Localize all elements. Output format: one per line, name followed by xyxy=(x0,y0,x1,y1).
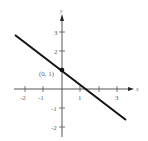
point-marker xyxy=(60,68,65,73)
x-tick-label: 1 xyxy=(78,94,82,102)
graph: x y -2 -1 1 3 3 2 -1 -2 (0, 1) xyxy=(0,0,148,141)
x-tick-label: -1 xyxy=(38,94,44,102)
x-tick-label: -2 xyxy=(20,94,26,102)
data-line xyxy=(15,35,126,120)
point-label: (0, 1) xyxy=(39,70,55,78)
x-axis-arrow-icon xyxy=(128,87,134,91)
y-tick-label: -2 xyxy=(51,124,57,132)
y-axis-arrow-icon xyxy=(60,14,64,21)
x-tick-label: 3 xyxy=(115,94,119,102)
y-tick-label: 2 xyxy=(54,48,58,56)
y-tick-label: 3 xyxy=(54,29,58,37)
y-axis-label: y xyxy=(59,8,63,14)
x-axis-label: x xyxy=(135,86,139,92)
y-tick-label: -1 xyxy=(51,105,57,113)
